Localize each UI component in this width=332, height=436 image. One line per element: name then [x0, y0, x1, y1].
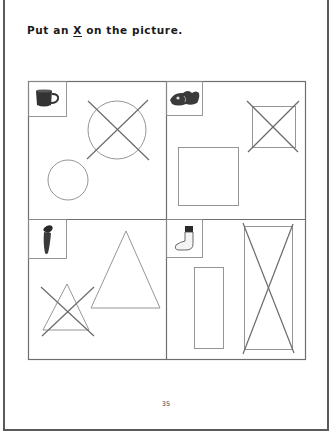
square-large[interactable] [179, 148, 239, 206]
page-number: 35 [0, 400, 332, 408]
grid-lines [29, 82, 306, 360]
panel-sock [167, 220, 295, 355]
x-mark [248, 101, 299, 152]
carrot-icon [43, 225, 52, 254]
square-small-marked[interactable] [247, 101, 299, 152]
panel-carrot [29, 220, 161, 337]
circle-large-marked[interactable] [87, 100, 149, 160]
triangle-small-marked[interactable] [41, 284, 94, 336]
circle-small[interactable] [48, 160, 88, 200]
rectangle-small[interactable] [195, 268, 224, 349]
worksheet-grid [0, 0, 332, 436]
triangle-large[interactable] [91, 231, 160, 308]
panel-fish [167, 82, 300, 206]
icon-box [167, 220, 203, 258]
fish-icon [170, 91, 199, 106]
panel-cup [29, 82, 150, 201]
cup-icon [36, 89, 58, 106]
rectangle-large-marked[interactable] [243, 223, 294, 354]
x-mark [247, 101, 298, 152]
sock-icon [175, 226, 193, 250]
